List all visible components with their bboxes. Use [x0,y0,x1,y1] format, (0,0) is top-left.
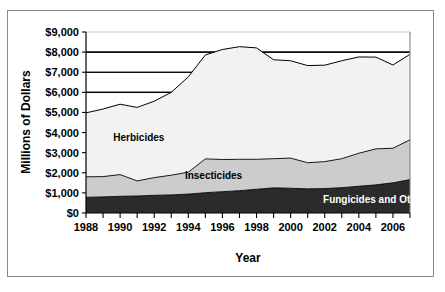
x-axis-ticks [86,213,410,218]
x-tick-label-1996: 1996 [210,221,234,233]
x-tick-label-2000: 2000 [278,221,302,233]
x-tick-label-1998: 1998 [244,221,268,233]
x-tick-label-2004: 2004 [347,221,372,233]
y-axis-title: Millions of Dollars [19,70,33,174]
series-label-insecticides: Insecticides [185,170,243,181]
y-tick-label-4000: $4,000 [45,127,79,139]
y-tick-label-1000: $1,000 [45,187,79,199]
x-tick-label-2002: 2002 [312,221,336,233]
x-axis-title: Year [235,251,261,265]
y-tick-label-9000: $9,000 [45,26,79,38]
chart-figure: $0$1,000$2,000$3,000$4,000$5,000$6,000$7… [0,0,445,292]
area-series-group [86,47,410,213]
y-tick-label-0: $0 [67,207,79,219]
x-tick-label-1994: 1994 [176,221,201,233]
y-tick-label-6000: $6,000 [45,86,79,98]
stacked-area-chart: $0$1,000$2,000$3,000$4,000$5,000$6,000$7… [0,0,445,292]
y-axis-tick-labels: $0$1,000$2,000$3,000$4,000$5,000$6,000$7… [45,26,79,219]
y-tick-label-8000: $8,000 [45,46,79,58]
x-tick-label-1988: 1988 [74,221,98,233]
x-tick-label-1990: 1990 [108,221,132,233]
x-axis-tick-labels: 1988199019921994199619982000200220042006 [74,221,405,233]
y-tick-label-5000: $5,000 [45,106,79,118]
series-label-fungicides: Fungicides and Others [323,194,432,205]
y-tick-label-2000: $2,000 [45,167,79,179]
series-label-herbicides: Herbicides [113,132,165,143]
y-tick-label-3000: $3,000 [45,147,79,159]
x-tick-label-1992: 1992 [142,221,166,233]
y-tick-label-7000: $7,000 [45,66,79,78]
x-tick-label-2006: 2006 [381,221,405,233]
